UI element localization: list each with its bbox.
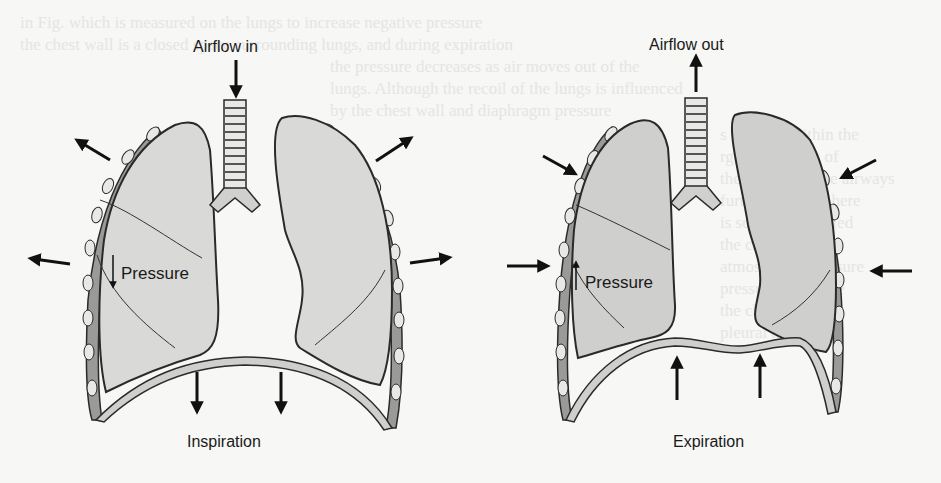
trachea-expiration	[671, 98, 721, 210]
svg-text:lungs. Although the recoil of: lungs. Although the recoil of the lungs …	[330, 79, 683, 98]
svg-text:the chest wall is a closed spa: the chest wall is a closed space surroun…	[20, 35, 513, 54]
pressure-label-expiration: Pressure	[585, 273, 653, 292]
chest-out-arrow-ul	[80, 142, 110, 160]
chest-out-arrow-ur	[376, 140, 408, 161]
expiration-caption: Expiration	[673, 433, 744, 450]
pressure-label-inspiration: Pressure	[121, 264, 189, 283]
breathing-diagram: in Fig. which is measured on the lungs t…	[0, 0, 941, 483]
diagram-canvas: in Fig. which is measured on the lungs t…	[0, 0, 941, 483]
airflow-in-label: Airflow in	[193, 38, 258, 55]
expiration-panel: Pressure Airflow out Expiration	[507, 36, 912, 450]
inspiration-panel: Pressure Airflow in Inspiration	[34, 38, 446, 450]
svg-text:in Fig. which is measured on t: in Fig. which is measured on the lungs t…	[20, 13, 483, 32]
left-lung-expiration	[572, 120, 675, 358]
chest-out-arrow-r	[410, 258, 446, 263]
svg-text:the pressure decreases as air: the pressure decreases as air moves out …	[330, 57, 640, 76]
trachea-inspiration	[210, 100, 260, 212]
svg-text:by the chest wall and diaphrag: by the chest wall and diaphragm pressure	[330, 101, 611, 120]
chest-out-arrow-l	[34, 259, 70, 264]
right-lung-inspiration	[275, 116, 392, 385]
airflow-out-label: Airflow out	[649, 36, 724, 53]
chest-in-arrow-ul	[543, 156, 572, 172]
inspiration-caption: Inspiration	[187, 433, 261, 450]
